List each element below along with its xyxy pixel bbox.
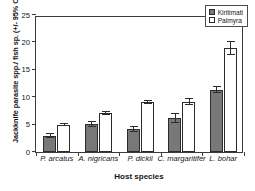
bar-palmyra: [224, 48, 237, 152]
x-axis-tick-label: P. dickii: [127, 154, 152, 163]
bar-kiritimati: [168, 118, 181, 152]
bar-group: [210, 17, 237, 152]
error-bar: [105, 111, 106, 114]
plot-area: 0510152025P. arcatusA. nigricansP. dicki…: [35, 16, 243, 153]
error-bar-cap: [102, 114, 110, 115]
error-bar: [216, 86, 217, 94]
legend-label-kiritimati: Kiritimati: [218, 9, 243, 16]
y-axis-tick-label: 15: [22, 69, 30, 70]
y-axis-tick: [32, 96, 36, 97]
error-bar-cap: [46, 137, 54, 138]
y-axis-tick: [32, 41, 36, 42]
error-bar-cap: [102, 111, 110, 112]
y-axis-tick-label: 25: [22, 15, 30, 16]
x-axis-tick-label: L. bohar: [209, 154, 237, 163]
x-axis-tick: [119, 152, 120, 156]
bar-group: [127, 17, 154, 152]
bar-group: [85, 17, 112, 152]
y-axis-tick-label: 20: [22, 42, 30, 43]
bar-palmyra: [141, 102, 154, 152]
x-axis-tick: [36, 152, 37, 156]
error-bar: [64, 123, 65, 126]
bar-palmyra: [57, 125, 70, 152]
error-bar-cap: [171, 122, 179, 123]
bar-kiritimati: [210, 90, 223, 152]
error-bar-cap: [144, 103, 152, 104]
error-bar-cap: [130, 126, 138, 127]
error-bar-cap: [60, 125, 68, 126]
bar-group: [43, 17, 70, 152]
error-bar: [230, 41, 231, 55]
x-axis-tick-label: P. arcatus: [40, 154, 73, 163]
y-axis-title: Jackknife parasite spp./ fish sp. (+/- 9…: [9, 0, 23, 143]
x-axis-tick: [244, 152, 245, 156]
chart-legend: Kiritimati Palmyra: [205, 5, 248, 27]
error-bar: [189, 98, 190, 105]
legend-item-palmyra: Palmyra: [209, 16, 243, 24]
bar-kiritimati: [43, 136, 56, 152]
error-bar-cap: [227, 41, 235, 42]
error-bar-cap: [130, 131, 138, 132]
error-bar: [50, 133, 51, 137]
bar-palmyra: [99, 113, 112, 152]
error-bar-cap: [227, 54, 235, 55]
x-axis-tick-label: A. nigricans: [79, 154, 119, 163]
error-bar-cap: [88, 126, 96, 127]
bar-kiritimati: [85, 124, 98, 152]
error-bar: [175, 113, 176, 123]
y-axis-tick-label: 5: [26, 124, 30, 125]
error-bar-cap: [213, 86, 221, 87]
error-bar-cap: [46, 133, 54, 134]
y-axis-tick: [32, 124, 36, 125]
legend-item-kiritimati: Kiritimati: [209, 8, 243, 16]
legend-swatch-kiritimati: [209, 9, 215, 15]
error-bar-cap: [88, 121, 96, 122]
error-bar-cap: [185, 104, 193, 105]
y-axis-tick: [32, 69, 36, 70]
error-bar-cap: [185, 98, 193, 99]
error-bar: [91, 121, 92, 126]
legend-label-palmyra: Palmyra: [218, 17, 242, 24]
y-axis-tick: [32, 14, 36, 15]
error-bar-cap: [213, 92, 221, 93]
x-axis-tick-label: C. margaritifer: [158, 154, 206, 163]
error-bar-cap: [171, 113, 179, 114]
bar-palmyra: [182, 102, 195, 152]
y-axis-tick-label: 10: [22, 97, 30, 98]
bar-group: [168, 17, 195, 152]
y-axis-tick-label: 0: [26, 152, 30, 153]
chart-figure: Jackknife parasite spp./ fish sp. (+/- 9…: [0, 0, 255, 191]
legend-swatch-palmyra: [209, 17, 215, 23]
x-axis-title: Host species: [35, 172, 243, 181]
error-bar: [147, 100, 148, 104]
error-bar: [133, 126, 134, 133]
bar-kiritimati: [127, 129, 140, 152]
error-bar-cap: [60, 123, 68, 124]
error-bar-cap: [144, 100, 152, 101]
